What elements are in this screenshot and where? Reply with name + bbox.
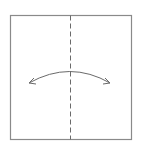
fold-diagram <box>0 0 142 151</box>
